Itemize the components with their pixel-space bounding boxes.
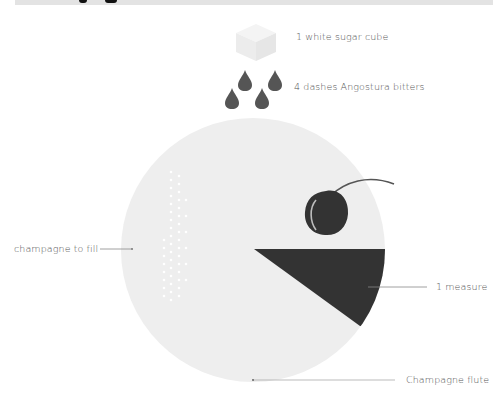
bitters-label: 4 dashes Angostura bitters [294, 81, 425, 92]
cocktail-diagram [0, 0, 495, 401]
measure-label: 1 measure [436, 281, 487, 292]
bitters-drops-icon [225, 70, 282, 109]
sugar-cube-label: 1 white sugar cube [296, 31, 388, 42]
sugar-cube-icon [236, 24, 276, 61]
champagne-flute-label: Champagne flute [406, 374, 489, 385]
champagne-to-fill-label: champagne to fill [14, 243, 98, 254]
